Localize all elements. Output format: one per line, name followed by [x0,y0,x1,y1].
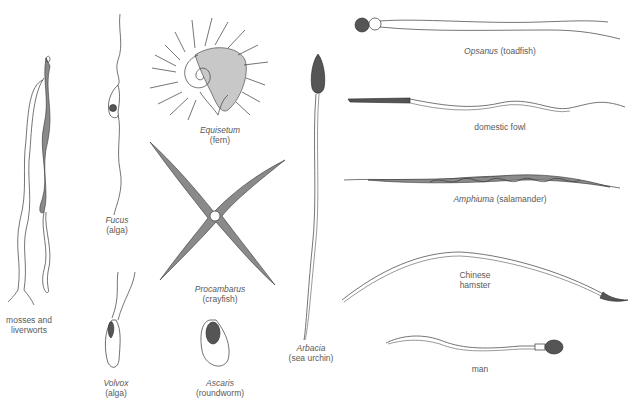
label-arbacia-common: (sea urchin) [282,353,340,363]
label-chinese-hamster: Chinese hamster [445,270,505,290]
procambarus-drawing [150,142,285,285]
label-man: man [455,364,505,374]
label-procambarus-sci: Procambarus [190,284,250,294]
equisetum-drawing [150,18,268,120]
label-procambarus-common: (crayfish) [190,294,250,304]
label-hamster-line1: Chinese [445,270,505,280]
fucus-drawing [108,14,121,215]
arbacia-drawing [304,54,325,340]
ascaris-drawing [201,320,229,366]
label-opsanus-common: (toadfish) [500,46,535,56]
label-mosses: mosses and liverworts [6,315,52,335]
volvox-drawing [105,272,135,367]
label-man-line1: man [455,364,505,374]
label-equisetum-sci: Equisetum [195,125,245,135]
label-amphiuma-common: (salamander) [496,194,546,204]
label-equisetum: Equisetum (fern) [195,125,245,145]
label-amphiuma-sci: Amphiuma [453,194,494,204]
opsanus-drawing [355,18,620,39]
label-amphiuma: Amphiuma (salamander) [430,194,570,204]
label-volvox-sci: Volvox [96,378,136,388]
man-drawing [386,336,563,354]
label-ascaris-sci: Ascaris [190,378,250,388]
amphiuma-drawing [344,175,620,188]
domestic-fowl-drawing [348,98,625,112]
label-mosses-line2: liverworts [6,325,52,335]
label-arbacia: Arbacia (sea urchin) [282,343,340,363]
label-fucus-common: (alga) [97,225,137,235]
mosses-liverworts-drawing [8,56,50,305]
label-hamster-line2: hamster [445,280,505,290]
label-fucus: Fucus (alga) [97,215,137,235]
label-arbacia-sci: Arbacia [282,343,340,353]
label-opsanus-sci: Opsanus [464,46,498,56]
label-volvox: Volvox (alga) [96,378,136,398]
label-ascaris: Ascaris (roundworm) [190,378,250,398]
label-domestic-fowl: domestic fowl [440,122,560,132]
label-fowl-line1: domestic fowl [440,122,560,132]
label-opsanus: Opsanus (toadfish) [440,46,560,56]
label-mosses-line1: mosses and [6,315,52,325]
label-volvox-common: (alga) [96,388,136,398]
label-procambarus: Procambarus (crayfish) [190,284,250,304]
label-ascaris-common: (roundworm) [190,388,250,398]
label-fucus-sci: Fucus [97,215,137,225]
label-equisetum-common: (fern) [195,135,245,145]
